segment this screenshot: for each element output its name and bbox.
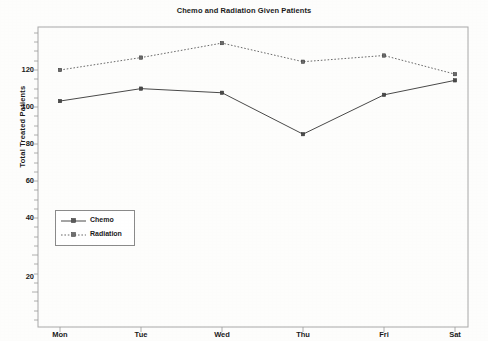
data-point-radiation-mon: [58, 68, 61, 71]
series-line-radiation: [60, 43, 455, 74]
data-point-chemo-mon: [58, 99, 61, 102]
series-line-chemo: [60, 80, 455, 134]
data-point-radiation-fri: [382, 54, 385, 57]
chart-legend: Chemo Radiation: [55, 210, 135, 246]
data-point-radiation-tue: [139, 56, 142, 59]
x-tick-wed: Wed: [202, 330, 242, 339]
plot-frame: [38, 27, 468, 327]
x-tick-thu: Thu: [283, 330, 323, 339]
plot-area-svg: [0, 0, 488, 341]
data-point-chemo-sat: [453, 79, 456, 82]
data-point-radiation-wed: [220, 41, 223, 44]
data-point-chemo-fri: [382, 93, 385, 96]
y-axis-ticks: [32, 33, 38, 320]
data-point-radiation-thu: [301, 60, 304, 63]
legend-swatch-chemo-icon: [60, 214, 87, 228]
x-tick-tue: Tue: [121, 330, 161, 339]
chart-container: Chemo and Radiation Given Patients Total…: [0, 0, 488, 341]
legend-entry-chemo: Chemo: [60, 214, 132, 228]
data-point-chemo-thu: [301, 132, 304, 135]
x-tick-sat: Sat: [435, 330, 475, 339]
legend-label-radiation: Radiation: [90, 230, 122, 237]
data-point-chemo-tue: [139, 87, 142, 90]
data-point-chemo-wed: [220, 91, 223, 94]
legend-label-chemo: Chemo: [90, 216, 114, 223]
series-markers-chemo: [58, 79, 456, 136]
x-tick-mon: Mon: [40, 330, 80, 339]
x-tick-fri: Fri: [364, 330, 404, 339]
series-markers-radiation: [58, 41, 456, 75]
legend-swatch-radiation-icon: [60, 228, 87, 242]
legend-entry-radiation: Radiation: [60, 228, 132, 242]
data-point-radiation-sat: [453, 72, 456, 75]
